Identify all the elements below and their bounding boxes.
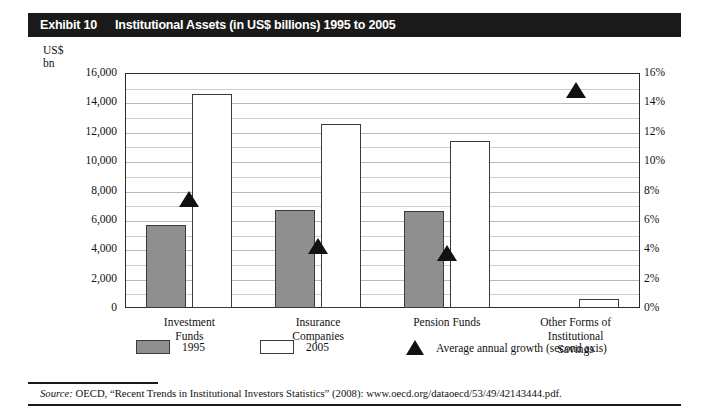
y-axis-tick-label: 12,000 <box>43 126 117 138</box>
y-axis-tick-label: 0 <box>43 302 117 314</box>
y2-axis-tick-label: 14% <box>644 96 694 108</box>
y-axis-tick-label: 14,000 <box>43 96 117 108</box>
y2-axis-tick-label: 16% <box>644 67 694 79</box>
bar-2005 <box>579 299 619 308</box>
legend-item-1995[interactable]: 1995 <box>136 340 205 354</box>
y-axis-tick-label: 2,000 <box>43 273 117 285</box>
exhibit-title: Institutional Assets (in US$ billions) 1… <box>97 18 395 32</box>
category-label-line: Other Forms of <box>511 316 640 330</box>
source-rule-bottom <box>28 404 681 406</box>
growth-marker <box>179 191 199 207</box>
y2-axis-tick-label: 10% <box>644 155 694 167</box>
legend-label: 2005 <box>306 341 329 353</box>
chart-container: US$ bn 02,0004,0006,0008,00010,00012,000… <box>28 42 681 372</box>
growth-marker <box>437 245 457 261</box>
y-axis-tick-label: 4,000 <box>43 243 117 255</box>
x-axis-category-label: Pension Funds <box>383 316 512 330</box>
bar-2005 <box>450 141 490 308</box>
legend-swatch-hollow <box>260 340 294 354</box>
y2-axis-tick-label: 0% <box>644 302 694 314</box>
growth-marker <box>308 238 328 254</box>
legend-label: Average annual growth (second axis) <box>436 342 607 354</box>
legend-triangle-icon <box>406 340 424 355</box>
growth-marker <box>566 82 586 98</box>
source-prefix: Source: <box>40 387 73 399</box>
legend-swatch-filled <box>136 340 170 354</box>
source-note: Source: OECD, “Recent Trends in Institut… <box>40 387 562 399</box>
y-axis-tick-label: 6,000 <box>43 214 117 226</box>
y-axis-unit-line1: US$ <box>43 44 63 57</box>
legend-label: 1995 <box>182 341 205 353</box>
y2-axis-tick-label: 6% <box>644 214 694 226</box>
source-text: OECD, “Recent Trends in Institutional In… <box>73 387 562 399</box>
y2-axis-tick-label: 8% <box>644 185 694 197</box>
y2-axis-tick-label: 12% <box>644 126 694 138</box>
gridline-minor <box>126 89 639 90</box>
legend-item-growth[interactable]: Average annual growth (second axis) <box>406 340 607 355</box>
exhibit-header: Exhibit 10 Institutional Assets (in US$ … <box>28 13 681 37</box>
bar-2005 <box>321 124 361 308</box>
y-axis-tick-label: 8,000 <box>43 185 117 197</box>
source-rule-top <box>28 382 158 384</box>
bar-1995 <box>275 210 315 308</box>
x-axis-category-label: InvestmentFunds <box>125 316 254 343</box>
category-label-line: Insurance <box>254 316 383 330</box>
y-axis-unit-caption: US$ bn <box>43 44 63 69</box>
category-label-line: Investment <box>125 316 254 330</box>
category-label-line: Pension Funds <box>383 316 512 330</box>
y2-axis-tick-label: 2% <box>644 273 694 285</box>
legend-item-2005[interactable]: 2005 <box>260 340 329 354</box>
y2-axis-tick-label: 4% <box>644 243 694 255</box>
y-axis-tick-label: 16,000 <box>43 67 117 79</box>
x-axis-category-label: InsuranceCompanies <box>254 316 383 343</box>
chart-legend: 19952005Average annual growth (second ax… <box>28 340 681 362</box>
y-axis-tick-label: 10,000 <box>43 155 117 167</box>
bar-1995 <box>146 225 186 308</box>
exhibit-label: Exhibit 10 <box>28 18 97 32</box>
